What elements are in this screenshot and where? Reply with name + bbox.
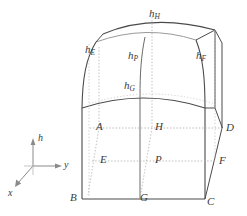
geometry-figure: hE hH hP hF hG A H D E P F B G C h y x [0,0,247,216]
axis-x-line [18,166,33,183]
height-label-hE-sub: E [91,48,96,57]
height-label-hH-sub: H [155,12,160,21]
point-label-B: B [70,192,77,203]
height-label-hG-sub: G [130,84,135,93]
point-label-F: F [219,155,226,166]
axis-label-y: y [64,160,68,170]
point-label-G: G [140,192,148,203]
point-label-C: C [207,196,214,207]
height-label-hG: hG [124,80,135,92]
point-label-E: E [100,154,107,165]
edge-c-to-hF [196,40,205,199]
axis-label-x: x [8,188,12,198]
edge-back-top-to-post [215,30,222,43]
height-label-hH: hH [149,8,160,20]
arc-back-top [103,22,215,34]
dotted-diagonal-A-to-B [88,128,99,195]
axis-label-h: h [38,133,43,143]
arc-hG [82,98,205,108]
edge-top-right-depth [196,30,215,40]
arc-front-top [96,32,196,42]
height-label-hE: hE [85,44,95,56]
dotted-diagonal-H-to-G [140,128,152,199]
axis-y-arrowhead [55,164,62,169]
dotted-arc-back-lower [89,94,215,104]
point-label-P: P [155,154,162,165]
point-label-D: D [226,122,234,133]
point-label-A: A [96,121,103,132]
height-label-hP-sub: P [134,54,139,63]
height-label-hF: hF [196,50,206,62]
height-label-hF-sub: F [202,54,207,63]
axis-h-arrowhead [31,138,36,145]
point-label-H: H [155,121,163,132]
figure-canvas [0,0,247,216]
edge-back-right-vertical [215,30,222,128]
height-label-hP: hP [128,50,138,62]
edge-mid-vertical-G [140,37,145,199]
